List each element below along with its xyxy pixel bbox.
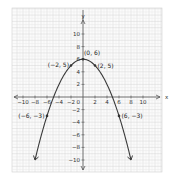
point-label: (6, −3) bbox=[122, 112, 143, 119]
y-tick-label: −6 bbox=[72, 132, 81, 138]
data-point bbox=[94, 64, 97, 67]
x-tick-label: −8 bbox=[31, 99, 40, 105]
data-point bbox=[70, 64, 73, 67]
y-tick-label: 2 bbox=[77, 81, 81, 87]
x-tick-label: −2 bbox=[67, 99, 75, 105]
x-tick-label: 2 bbox=[93, 99, 97, 105]
y-tick-label: 10 bbox=[73, 31, 80, 37]
y-tick-label: 8 bbox=[77, 44, 81, 50]
y-tick-label: 4 bbox=[77, 69, 81, 75]
point-label: (0, 6) bbox=[84, 49, 100, 56]
data-point bbox=[82, 58, 85, 61]
point-label: (−2, 5) bbox=[48, 61, 69, 68]
x-tick-label: −10 bbox=[17, 99, 29, 105]
y-tick-label: −10 bbox=[68, 157, 80, 163]
data-point bbox=[46, 115, 49, 118]
data-point bbox=[118, 115, 121, 118]
y-tick-label: −8 bbox=[72, 144, 81, 150]
x-tick-label: 10 bbox=[140, 99, 147, 105]
x-tick-label: −6 bbox=[43, 99, 52, 105]
origin-label: 0 bbox=[77, 99, 81, 105]
x-tick-label: 8 bbox=[129, 99, 133, 105]
x-tick-label: 4 bbox=[105, 99, 109, 105]
y-tick-label: −4 bbox=[72, 119, 81, 125]
x-axis-label: x bbox=[165, 94, 169, 100]
parabola-chart: xy −10−8−6−4−2246810−10−8−6−4−22468100 (… bbox=[0, 0, 177, 185]
x-tick-label: 6 bbox=[117, 99, 121, 105]
y-tick-label: −2 bbox=[72, 107, 80, 113]
x-tick-label: −4 bbox=[55, 99, 64, 105]
grid bbox=[12, 8, 162, 172]
point-label: (2, 5) bbox=[98, 62, 114, 69]
point-label: (−6, −3) bbox=[18, 112, 44, 119]
